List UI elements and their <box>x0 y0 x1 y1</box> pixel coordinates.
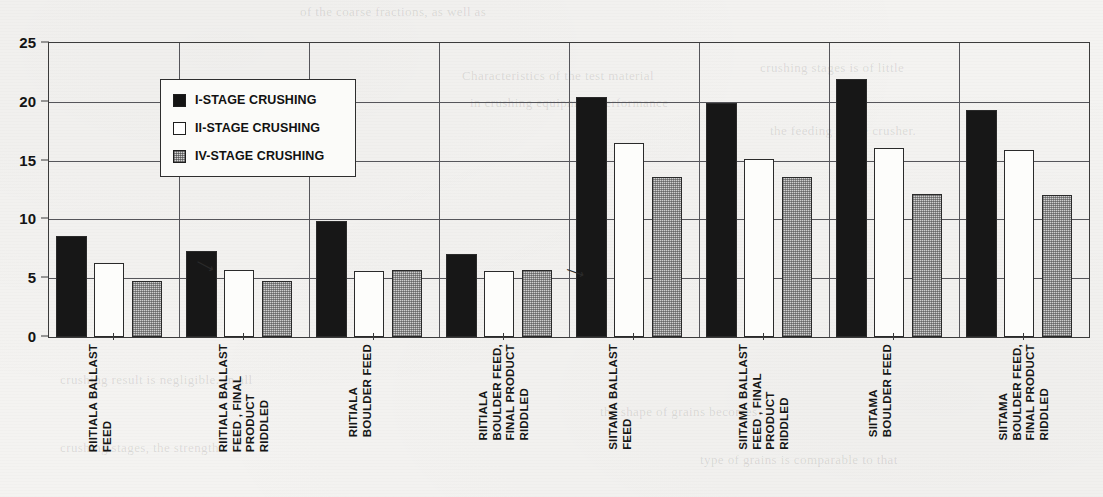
x-axis-tick-mark <box>763 333 764 340</box>
x-axis-tick-label: RIITIALA BALLAST FEED , FINAL PRODUCT RI… <box>217 344 271 452</box>
x-axis-tick-mark <box>893 333 894 340</box>
bar[interactable] <box>446 254 477 337</box>
x-axis-tick-label: SIITAMA BALLAST FEED , FINAL PRODUCT RID… <box>737 344 791 450</box>
y-axis-tick-label: 10 <box>0 210 36 227</box>
bar[interactable] <box>94 263 125 337</box>
bar[interactable] <box>262 281 293 337</box>
bar[interactable] <box>224 270 255 337</box>
y-axis-tick-label: 0 <box>0 328 36 345</box>
bar[interactable] <box>1042 195 1073 337</box>
bar[interactable] <box>354 271 385 337</box>
x-axis-tick-mark <box>1023 333 1024 340</box>
bar[interactable] <box>1004 150 1035 337</box>
bar-group <box>439 43 569 337</box>
y-axis-tick-label: 20 <box>0 92 36 109</box>
bar-group <box>829 43 959 337</box>
bar[interactable] <box>652 177 683 337</box>
x-axis-tick-mark <box>633 333 634 340</box>
legend-swatch-ii-stage-icon <box>173 122 186 135</box>
bar-group <box>569 43 699 337</box>
bar[interactable] <box>614 143 645 337</box>
chart-legend: I-STAGE CRUSHING II-STAGE CRUSHING IV-ST… <box>160 79 356 177</box>
x-axis-labels: RIITIALA BALLAST FEEDRIITIALA BALLAST FE… <box>48 340 1090 497</box>
legend-swatch-iv-stage-icon <box>173 150 186 163</box>
bar[interactable] <box>744 159 775 337</box>
legend-swatch-i-stage-icon <box>173 94 186 107</box>
x-axis-tick-label: RIITIALA BOULDER FEED <box>347 344 374 437</box>
bar[interactable] <box>782 177 813 337</box>
legend-item[interactable]: I-STAGE CRUSHING <box>173 89 345 111</box>
x-axis-tick-mark <box>113 333 114 340</box>
bar[interactable] <box>392 270 423 337</box>
x-axis-tick-label: RIITIALA BOULDER FEED, FINAL PRODUCT RID… <box>477 344 531 441</box>
x-axis-tick-label: RIITIALA BALLAST FEED <box>87 344 114 452</box>
y-axis-tick-label: 15 <box>0 151 36 168</box>
y-axis-tick-label: 5 <box>0 269 36 286</box>
bar[interactable] <box>316 221 347 337</box>
bar-group <box>959 43 1089 337</box>
x-axis-tick-label: SIITAMA BOULDER FEED, FINAL PRODUCT RIDD… <box>997 344 1051 441</box>
legend-label: IV-STAGE CRUSHING <box>195 149 324 163</box>
x-axis-tick-label: SIITAMA BALLAST FEED <box>607 344 634 450</box>
bar[interactable] <box>132 281 163 337</box>
legend-label: I-STAGE CRUSHING <box>195 93 317 107</box>
x-axis-tick-mark <box>503 333 504 340</box>
bar[interactable] <box>522 270 553 337</box>
bar-group <box>699 43 829 337</box>
chart-page: of the coarse fractions, as well as Char… <box>0 0 1103 497</box>
legend-item[interactable]: II-STAGE CRUSHING <box>173 117 345 139</box>
bar[interactable] <box>874 148 905 337</box>
bar[interactable] <box>56 236 87 337</box>
bar[interactable] <box>912 194 943 337</box>
y-axis-tick-label: 25 <box>0 34 36 51</box>
legend-item[interactable]: IV-STAGE CRUSHING <box>173 145 345 167</box>
bar[interactable] <box>576 97 607 337</box>
bar[interactable] <box>706 103 737 337</box>
x-axis-tick-mark <box>373 333 374 340</box>
x-axis-tick-label: SIITAMA BOULDER FEED <box>867 344 894 437</box>
bar[interactable] <box>484 271 515 337</box>
x-axis-tick-mark <box>243 333 244 340</box>
bar[interactable] <box>836 79 867 337</box>
bar[interactable] <box>966 110 997 337</box>
legend-label: II-STAGE CRUSHING <box>195 121 320 135</box>
